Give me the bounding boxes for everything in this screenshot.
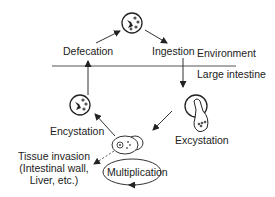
tissue-invasion-line3: Liver, etc.) [14, 174, 94, 186]
cyst-icon-encystation [70, 95, 90, 115]
trophozoite-icon [112, 136, 143, 154]
label-large-intestine: Large intestine [197, 68, 266, 80]
label-defecation: Defecation [63, 45, 113, 57]
excysting-cyst-icon [185, 95, 208, 132]
label-multiplication: Multiplication [107, 166, 168, 178]
label-ingestion: Ingestion [152, 45, 195, 57]
tissue-invasion-line1: Tissue invasion [14, 150, 94, 162]
label-encystation: Encystation [50, 125, 104, 137]
cyst-icon-top [122, 13, 142, 33]
label-excystation: Excystation [175, 134, 229, 146]
arrow-defecation-to-cyst [96, 31, 120, 43]
arrow-tissue-invasion [94, 151, 114, 164]
tissue-invasion-line2: (Intestinal wall, [14, 162, 94, 174]
label-tissue-invasion: Tissue invasion (Intestinal wall, Liver,… [14, 150, 94, 186]
arrow-excystation-to-trophozoite [153, 111, 172, 130]
arrow-cyst-to-ingestion [145, 30, 167, 43]
label-environment: Environment [197, 47, 256, 59]
